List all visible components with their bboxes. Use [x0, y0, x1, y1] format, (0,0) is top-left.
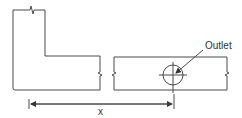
dimension-label: x	[98, 106, 103, 117]
duct-outlet-diagram: Outlet x	[0, 0, 242, 118]
outlet-label: Outlet	[205, 40, 232, 51]
l-shaped-duct	[13, 6, 102, 90]
outlet-leader	[176, 50, 203, 73]
